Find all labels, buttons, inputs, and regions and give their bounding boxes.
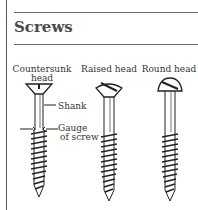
- raised-head-screw-icon: [96, 83, 122, 201]
- countersunk-screw-icon: [20, 84, 58, 197]
- screws-illustration: [0, 0, 198, 210]
- round-head-screw-icon: [158, 78, 182, 201]
